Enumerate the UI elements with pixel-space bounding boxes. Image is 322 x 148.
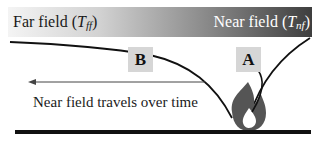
marker-a-label: A	[242, 50, 254, 70]
caption: Near field travels over time	[33, 94, 198, 111]
diagram-canvas	[0, 0, 322, 148]
marker-b: B	[128, 47, 153, 72]
marker-a: A	[236, 47, 261, 72]
ground-line	[15, 130, 311, 134]
arrowhead-left-icon	[28, 79, 36, 85]
marker-b-label: B	[135, 50, 146, 70]
fire-icon	[232, 66, 266, 131]
travel-arrow	[28, 79, 205, 85]
